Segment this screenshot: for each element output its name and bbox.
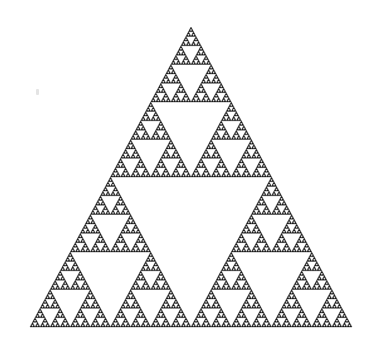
fractal-path — [30, 27, 352, 327]
fractal-triangles — [30, 27, 352, 327]
scan-artifact-mark — [36, 89, 39, 95]
sierpinski-triangle — [0, 0, 378, 342]
figure-canvas — [0, 0, 378, 342]
